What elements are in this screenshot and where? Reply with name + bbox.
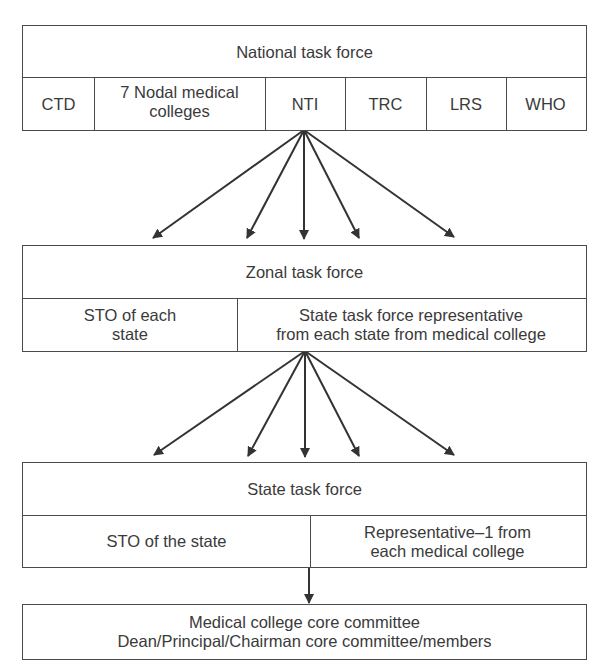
member-nti: NTI — [265, 78, 345, 130]
state-task-force-box: State task force STO of the state Repres… — [22, 462, 587, 568]
member-nodal-colleges: 7 Nodal medical colleges — [94, 76, 265, 128]
member-ctd: CTD — [23, 78, 94, 130]
arrow-icon — [305, 351, 359, 456]
state-member-representative: Representative–1 from each medical colle… — [310, 516, 585, 567]
zonal-member-state-rep: State task force representative from eac… — [237, 299, 585, 351]
core-committee-title: Medical college core committee — [189, 613, 420, 632]
core-committee-text: Medical college core committee Dean/Prin… — [23, 605, 586, 659]
arrow-icon — [305, 351, 454, 455]
fan-arrows-zonal-to-state — [154, 351, 454, 457]
arrow-icon — [247, 130, 304, 238]
zonal-task-force-box: Zonal task force STO of each state State… — [22, 245, 587, 352]
fan-arrows-national-to-zonal — [153, 130, 454, 239]
state-member-sto: STO of the state — [23, 516, 310, 567]
arrow-icon — [154, 351, 305, 455]
arrow-icon — [304, 130, 359, 238]
member-lrs: LRS — [426, 78, 506, 130]
zonal-member-sto: STO of each state — [23, 299, 237, 351]
arrow-icon — [153, 130, 304, 238]
national-task-force-title: National task force — [23, 26, 586, 78]
member-trc: TRC — [345, 78, 426, 130]
state-task-force-title: State task force — [23, 463, 586, 515]
arrow-icon — [248, 351, 305, 456]
core-committee-box: Medical college core committee Dean/Prin… — [22, 604, 587, 660]
zonal-task-force-title: Zonal task force — [23, 246, 586, 298]
arrow-icon — [304, 130, 454, 237]
member-who: WHO — [506, 78, 585, 130]
core-committee-members: Dean/Principal/Chairman core committee/m… — [117, 632, 491, 651]
national-task-force-box: National task force CTD 7 Nodal medical … — [22, 25, 587, 131]
